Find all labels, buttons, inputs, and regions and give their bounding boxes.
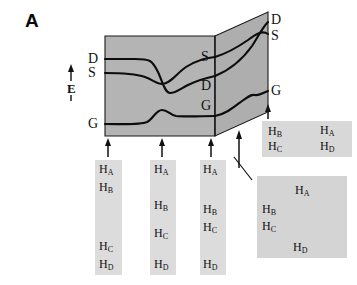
gel-band-gel-2d-top-A: HA [320, 124, 334, 136]
right-label-G: G [271, 84, 281, 98]
lane-2-arrow [159, 138, 165, 157]
right-face-panel [215, 12, 268, 136]
gel-band-lane-2-B: HB [154, 199, 168, 211]
back-label-S: S [201, 50, 209, 64]
gel-band-lane-1-D: HD [99, 258, 113, 270]
front-label-G: G [88, 117, 98, 131]
gel-band-gel-2d-top-C: HC [268, 140, 282, 152]
gel-band-lane-3-D: HD [203, 258, 217, 270]
front-label-S: S [88, 66, 96, 80]
gel-band-lane-1-C: HC [99, 240, 113, 252]
gel-band-gel-2d-top-D: HD [320, 140, 334, 152]
right-label-D: D [271, 13, 281, 27]
gel-band-gel-2d-bottom-B: HB [262, 203, 276, 215]
gel-band-lane-2-C: HC [154, 227, 168, 239]
right-label-S: S [271, 29, 279, 43]
figure-canvas: A [0, 0, 357, 285]
gel-band-gel-2d-bottom-D: HD [293, 241, 307, 253]
gel-band-lane-1-A: HA [99, 163, 113, 175]
gel-band-gel-2d-bottom-C: HC [262, 220, 276, 232]
gel-band-lane-3-A: HA [203, 163, 217, 175]
energy-landscape-box [105, 12, 268, 136]
gel-band-lane-3-C: HC [203, 221, 217, 233]
gel-band-gel-2d-top-B: HB [268, 125, 282, 137]
front-label-D: D [88, 52, 98, 66]
lane-3-arrow [208, 138, 214, 157]
gel-2d-bottom-pointer-line [234, 157, 252, 180]
gel-band-lane-3-B: HB [203, 203, 217, 215]
up-arrow-icon [68, 64, 74, 72]
front-face-panel [105, 36, 215, 136]
back-label-G: G [201, 99, 211, 113]
gel-band-gel-2d-bottom-A: HA [295, 184, 309, 196]
gel-band-lane-1-B: HB [99, 181, 113, 193]
gel-band-lane-2-A: HA [154, 163, 168, 175]
back-label-D: D [201, 79, 211, 93]
energy-axis-label: E [67, 82, 76, 95]
lane-1-arrow [105, 138, 111, 157]
landscape-pointer-arrow [236, 130, 242, 168]
gel-band-lane-2-D: HD [154, 258, 168, 270]
